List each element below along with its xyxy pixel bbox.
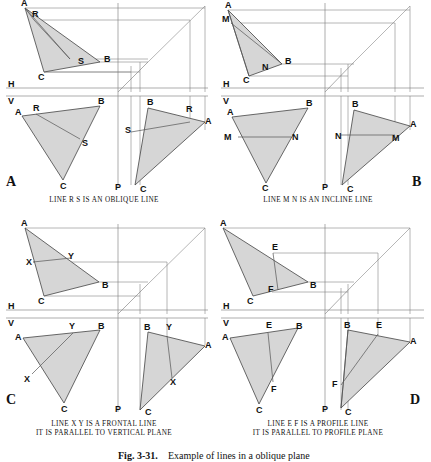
label-C-prof-Y: Y <box>166 322 172 332</box>
label-B-prof-B: B <box>352 99 359 109</box>
label-C-prof-A: A <box>205 340 212 350</box>
panel-A: A R B S C H V A R B S C B R A S <box>6 0 212 204</box>
label-D-P: P <box>322 404 328 414</box>
label-D-top-B: B <box>310 280 317 290</box>
panel-label-B: B <box>412 174 421 189</box>
label-A-prof-R: R <box>186 104 193 114</box>
label-B-top-C: C <box>243 75 250 85</box>
label-D-prof-A: A <box>410 336 417 346</box>
panel-A-front-view: A R B S C <box>15 96 105 191</box>
label-B-prof-C: C <box>347 184 354 194</box>
panel-D-top-view: A E F B C <box>220 218 317 306</box>
label-D-prof-E: E <box>376 320 382 330</box>
label-C-top-A: A <box>21 218 28 228</box>
label-A-P: P <box>115 182 121 192</box>
label-D-top-F: F <box>268 284 274 294</box>
label-A-prof-B: B <box>147 97 154 107</box>
label-B-top-A: A <box>225 0 232 10</box>
label-C-front-A: A <box>15 332 22 342</box>
panel-D-caption-2: IT IS PARALLEL TO PROFILE PLANE <box>253 429 384 437</box>
figure-number: Fig. 3-31. <box>118 450 158 461</box>
panel-D-front-view: A E F B C <box>222 320 303 415</box>
label-D-top-A: A <box>220 218 227 228</box>
label-D-top-E: E <box>272 242 278 252</box>
label-D-front-B: B <box>296 321 303 331</box>
label-D-prof-C: C <box>345 407 352 417</box>
label-C-top-C: C <box>38 296 45 306</box>
label-D-front-E: E <box>266 320 272 330</box>
label-B-front-C: C <box>262 183 269 193</box>
label-A-V: V <box>8 96 14 106</box>
label-C-front-Y: Y <box>69 321 75 331</box>
label-A-front-B: B <box>98 96 105 106</box>
label-C-top-X: X <box>26 257 32 267</box>
label-C-V: V <box>8 318 14 328</box>
label-A-top-A: A <box>21 0 28 8</box>
panel-C-hv-labels: H V <box>8 301 15 328</box>
label-A-front-C: C <box>60 181 67 191</box>
panel-D: A E F B C H V A E F B C B E A F C <box>220 218 424 437</box>
label-A-H: H <box>8 79 15 89</box>
figure-sheet: A R B S C H V A R B S C B R A S <box>0 0 431 462</box>
label-B-front-B: B <box>306 98 313 108</box>
label-B-top-M: M <box>222 14 230 24</box>
figure-caption-text: Example of lines in a oblique plane <box>168 450 310 461</box>
panel-A-top-view: A R B S C <box>21 0 111 82</box>
label-C-top-B: B <box>102 280 109 290</box>
panel-B: A M B N C H V A M B N C B N A M C P <box>221 0 424 204</box>
label-A-top-S: S <box>78 56 84 66</box>
panel-A-hv-labels: H V <box>8 79 15 106</box>
label-A-prof-A: A <box>205 116 212 126</box>
panel-B-caption: LINE M N IS AN INCLINE LINE <box>263 196 373 204</box>
label-D-front-C: C <box>256 405 263 415</box>
panel-D-caption: LINE E F IS A PROFILE LINE <box>268 420 369 428</box>
label-B-P: P <box>322 182 328 192</box>
panel-B-top-view: A M B N C <box>222 0 292 85</box>
label-C-prof-B: B <box>144 322 151 332</box>
panel-A-caption: LINE R S IS AN OBLIQUE LINE <box>49 196 159 204</box>
label-D-top-C: C <box>247 296 254 306</box>
panel-label-A: A <box>6 174 17 189</box>
label-C-front-X: X <box>24 374 30 384</box>
label-A-top-R: R <box>32 9 39 19</box>
panel-B-front-view: A M B N C <box>224 98 313 193</box>
label-B-front-N: N <box>292 132 299 142</box>
label-B-prof-N: N <box>335 131 342 141</box>
label-B-prof-M: M <box>392 133 400 143</box>
panel-B-profile-view: B N A M C P <box>322 99 417 194</box>
label-B-H: H <box>223 79 230 89</box>
label-A-prof-C: C <box>140 184 147 194</box>
panel-D-profile-view: B E A F C P <box>322 320 417 417</box>
label-C-front-C: C <box>61 404 68 414</box>
label-D-V: V <box>223 318 229 328</box>
panel-C-caption-2: IT IS PARALLEL TO VERTICAL PLANE <box>36 429 172 437</box>
label-A-top-C: C <box>38 72 45 82</box>
label-A-front-A: A <box>15 107 22 117</box>
panel-label-C: C <box>6 392 16 407</box>
label-B-V: V <box>223 96 229 106</box>
label-C-H: H <box>8 301 15 311</box>
label-B-front-M: M <box>224 132 232 142</box>
label-C-P: P <box>115 404 121 414</box>
panel-C-caption: LINE X Y IS A FRONTAL LINE <box>51 420 157 428</box>
figure-caption: Fig. 3-31. Example of lines in a oblique… <box>118 450 310 461</box>
label-B-top-B: B <box>285 56 292 66</box>
label-D-H: H <box>223 301 230 311</box>
label-D-front-A: A <box>222 332 229 342</box>
label-C-top-Y: Y <box>68 251 74 261</box>
label-D-prof-B: B <box>344 320 351 330</box>
panel-C-front-view: A X Y B C <box>15 321 105 414</box>
label-A-front-R: R <box>33 103 40 113</box>
label-B-front-A: A <box>227 107 234 117</box>
label-C-front-B: B <box>98 321 105 331</box>
panel-label-D: D <box>410 392 420 407</box>
label-A-top-B: B <box>104 54 111 64</box>
panel-B-hv-labels: H V <box>223 79 230 106</box>
label-D-front-F: F <box>271 384 277 394</box>
panel-B-axes <box>221 3 424 188</box>
label-A-front-S: S <box>82 138 88 148</box>
label-A-prof-S: S <box>125 125 131 135</box>
panel-C-profile-view: B Y A X C P <box>115 322 212 417</box>
label-D-prof-F: F <box>332 379 338 389</box>
panel-D-hv-labels: H V <box>223 301 230 328</box>
